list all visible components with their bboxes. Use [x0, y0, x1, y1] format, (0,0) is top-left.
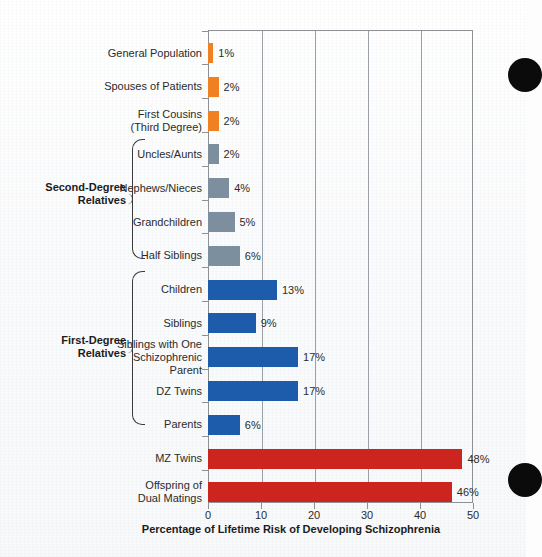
bar-value-label: 6% — [240, 246, 261, 266]
y-axis-tick — [202, 267, 209, 268]
y-axis-tick — [202, 369, 209, 370]
category-label: Offspring of Dual Matings — [42, 479, 202, 505]
y-axis-tick — [202, 402, 209, 403]
category-label: Parents — [42, 418, 202, 431]
y-axis-tick — [202, 200, 209, 201]
bar-value-label: 17% — [298, 381, 325, 401]
first-degree-group-label: First-Degree Relatives — [16, 334, 126, 360]
category-label: General Population — [42, 47, 202, 60]
category-label: Grandchildren — [42, 216, 202, 229]
bar — [208, 449, 462, 469]
bar — [208, 482, 452, 502]
x-axis-tick-label: 20 — [294, 509, 334, 521]
first-degree-bracket — [132, 271, 145, 425]
bar — [208, 178, 229, 198]
y-axis-tick — [202, 233, 209, 234]
y-axis-tick — [202, 301, 209, 302]
x-axis-tick-label: 40 — [400, 509, 440, 521]
bar — [208, 280, 277, 300]
bar-value-label: 48% — [462, 449, 489, 469]
bar — [208, 77, 219, 97]
y-axis-tick — [202, 436, 209, 437]
y-axis-tick — [202, 98, 209, 99]
bar-value-label: 13% — [277, 280, 304, 300]
y-axis-tick — [202, 132, 209, 133]
bar — [208, 212, 235, 232]
x-axis-tick-label: 0 — [188, 509, 228, 521]
bar — [208, 144, 219, 164]
y-axis-tick — [202, 470, 209, 471]
category-label: Children — [42, 283, 202, 296]
bar-value-label: 9% — [256, 313, 277, 333]
category-label: DZ Twins — [42, 385, 202, 398]
category-label: Half Siblings — [42, 249, 202, 262]
page-marker-dot-bottom — [508, 463, 542, 497]
category-label: Uncles/Aunts — [42, 148, 202, 161]
y-axis-tick — [202, 31, 209, 32]
bar — [208, 313, 256, 333]
bar — [208, 347, 298, 367]
bar-value-label: 17% — [298, 347, 325, 367]
bar — [208, 246, 240, 266]
category-label: First Cousins (Third Degree) — [42, 108, 202, 134]
bar — [208, 415, 240, 435]
x-axis-tick-label: 50 — [453, 509, 493, 521]
y-axis-tick — [202, 64, 209, 65]
bar-value-label: 4% — [229, 178, 250, 198]
x-axis-tick-label: 10 — [241, 509, 281, 521]
x-axis-tick-label: 30 — [347, 509, 387, 521]
bar-value-label: 2% — [219, 144, 240, 164]
bar-value-label: 2% — [219, 111, 240, 131]
bar-value-label: 2% — [219, 77, 240, 97]
y-axis-tick — [202, 335, 209, 336]
y-axis-tick — [202, 166, 209, 167]
second-degree-bracket — [132, 139, 145, 259]
category-label: Spouses of Patients — [42, 80, 202, 93]
category-label: Siblings — [42, 317, 202, 330]
bar-value-label: 1% — [213, 43, 234, 63]
second-degree-group-label: Second-Degree Relatives — [16, 181, 126, 207]
bar-value-label: 46% — [452, 482, 479, 502]
category-label: MZ Twins — [42, 452, 202, 465]
x-axis-title: Percentage of Lifetime Risk of Developin… — [0, 523, 526, 535]
bar-value-label: 5% — [235, 212, 256, 232]
page-marker-dot-top — [508, 58, 542, 92]
bar — [208, 381, 298, 401]
bar — [208, 111, 219, 131]
bar-value-label: 6% — [240, 415, 261, 435]
